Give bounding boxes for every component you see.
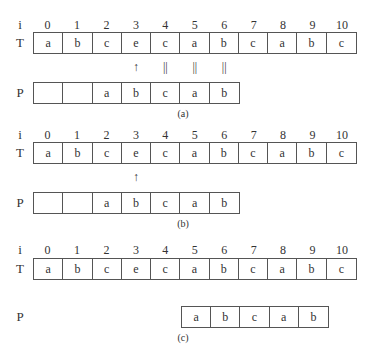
pattern-cell: a bbox=[270, 307, 299, 327]
pattern-cell: a bbox=[93, 83, 122, 103]
index-label: 4 bbox=[151, 128, 180, 142]
index-label: 8 bbox=[269, 128, 298, 142]
match-marker-icon: || bbox=[180, 60, 209, 74]
pattern-cell: a bbox=[180, 193, 209, 213]
pattern-array-P: a b c a b bbox=[181, 306, 329, 328]
text-cell: c bbox=[151, 33, 180, 53]
pattern-cell: a bbox=[180, 83, 209, 103]
pattern-cell: c bbox=[151, 193, 180, 213]
index-label: 7 bbox=[239, 18, 268, 32]
text-array-T: a b c e c a b c a b c bbox=[33, 32, 357, 54]
index-label: 7 bbox=[239, 243, 268, 257]
pattern-cell bbox=[63, 83, 92, 103]
text-cell: e bbox=[122, 259, 151, 279]
text-cell: b bbox=[297, 33, 326, 53]
text-cell: a bbox=[180, 259, 209, 279]
index-label: 8 bbox=[269, 243, 298, 257]
pattern-array-P: a b c a b bbox=[33, 192, 240, 214]
mismatch-arrow-icon: ↑ bbox=[121, 60, 150, 74]
text-cell: a bbox=[268, 143, 297, 163]
text-cell: a bbox=[180, 143, 209, 163]
index-label: 6 bbox=[210, 128, 239, 142]
index-label: 1 bbox=[63, 243, 92, 257]
index-label: 8 bbox=[269, 18, 298, 32]
index-label: 10 bbox=[328, 128, 357, 142]
pattern-cell: b bbox=[210, 83, 239, 103]
pattern-cell: b bbox=[299, 307, 328, 327]
index-row-label: i bbox=[13, 128, 27, 142]
index-label: 2 bbox=[92, 128, 121, 142]
text-cell: a bbox=[34, 33, 63, 53]
match-marker-icon: || bbox=[151, 60, 180, 74]
index-label: 3 bbox=[121, 128, 150, 142]
pattern-cell: b bbox=[211, 307, 240, 327]
text-cell: a bbox=[268, 33, 297, 53]
index-label: 6 bbox=[210, 18, 239, 32]
text-cell: e bbox=[122, 143, 151, 163]
panel-a: i 0 1 2 3 4 5 6 7 8 9 10 T a b c e c a b… bbox=[0, 0, 371, 122]
index-label: 9 bbox=[298, 243, 327, 257]
text-cell: c bbox=[327, 143, 356, 163]
index-row-label: i bbox=[13, 18, 27, 32]
text-cell: c bbox=[327, 259, 356, 279]
pattern-row-label: P bbox=[13, 310, 27, 324]
index-label: 3 bbox=[121, 243, 150, 257]
text-cell: b bbox=[297, 259, 326, 279]
pattern-cell: b bbox=[210, 193, 239, 213]
text-cell: c bbox=[93, 143, 122, 163]
index-row-label: i bbox=[13, 243, 27, 257]
index-label: 0 bbox=[33, 128, 62, 142]
text-cell: c bbox=[93, 33, 122, 53]
pattern-cell: a bbox=[93, 193, 122, 213]
text-cell: c bbox=[93, 259, 122, 279]
index-label: 0 bbox=[33, 243, 62, 257]
text-cell: b bbox=[63, 143, 92, 163]
text-cell: c bbox=[239, 33, 268, 53]
text-cell: c bbox=[151, 143, 180, 163]
index-label: 4 bbox=[151, 243, 180, 257]
text-row-label: T bbox=[13, 146, 27, 160]
text-array-T: a b c e c a b c a b c bbox=[33, 142, 357, 164]
index-label: 4 bbox=[151, 18, 180, 32]
index-label: 10 bbox=[328, 18, 357, 32]
text-cell: b bbox=[210, 33, 239, 53]
index-label: 2 bbox=[92, 18, 121, 32]
pattern-cell bbox=[63, 193, 92, 213]
index-label: 0 bbox=[33, 18, 62, 32]
index-label: 6 bbox=[210, 243, 239, 257]
mismatch-arrow-icon: ↑ bbox=[121, 170, 150, 184]
pattern-cell: c bbox=[151, 83, 180, 103]
pattern-row-label: P bbox=[13, 86, 27, 100]
text-cell: a bbox=[180, 33, 209, 53]
index-label: 1 bbox=[63, 128, 92, 142]
index-label: 1 bbox=[63, 18, 92, 32]
index-label: 7 bbox=[239, 128, 268, 142]
pattern-cell: a bbox=[182, 307, 211, 327]
text-row-label: T bbox=[13, 262, 27, 276]
text-cell: c bbox=[327, 33, 356, 53]
text-cell: a bbox=[34, 259, 63, 279]
text-cell: b bbox=[63, 33, 92, 53]
text-cell: b bbox=[63, 259, 92, 279]
pattern-cell: b bbox=[122, 83, 151, 103]
pattern-row-label: P bbox=[13, 196, 27, 210]
index-label: 2 bbox=[92, 243, 121, 257]
text-cell: c bbox=[239, 143, 268, 163]
match-marker-icon: || bbox=[210, 60, 239, 74]
index-label: 9 bbox=[298, 128, 327, 142]
index-label: 5 bbox=[180, 128, 209, 142]
text-cell: a bbox=[34, 143, 63, 163]
index-label: 9 bbox=[298, 18, 327, 32]
pattern-cell bbox=[34, 193, 63, 213]
index-label: 3 bbox=[121, 18, 150, 32]
pattern-cell bbox=[34, 83, 63, 103]
text-cell: a bbox=[268, 259, 297, 279]
panel-b: i 0 1 2 3 4 5 6 7 8 9 10 T a b c e c a b… bbox=[0, 110, 371, 232]
text-cell: b bbox=[297, 143, 326, 163]
text-cell: c bbox=[151, 259, 180, 279]
text-array-T: a b c e c a b c a b c bbox=[33, 258, 357, 280]
panel-c: i 0 1 2 3 4 5 6 7 8 9 10 T a b c e c a b… bbox=[0, 226, 371, 347]
pattern-cell: c bbox=[240, 307, 269, 327]
text-cell: e bbox=[122, 33, 151, 53]
pattern-cell: b bbox=[122, 193, 151, 213]
